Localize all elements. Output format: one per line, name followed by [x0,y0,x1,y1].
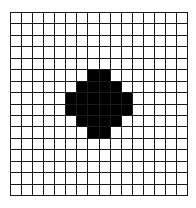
grid-cell [154,172,165,183]
grid-cell [143,115,154,126]
grid-cell [99,35,110,46]
grid-cell [154,92,165,103]
grid-cell [54,104,65,115]
grid-cell-filled [65,92,76,103]
grid-cell [76,58,87,69]
grid-cell [176,92,187,103]
grid-cell [76,161,87,172]
grid-cell [65,23,76,34]
grid-cell [132,104,143,115]
grid-cell [21,92,32,103]
grid-cell [143,46,154,57]
grid-cell-filled [99,69,110,80]
grid-cell [143,104,154,115]
grid-cell [132,149,143,160]
grid-cell [165,184,176,195]
grid-cell [87,138,98,149]
grid-cell [110,69,121,80]
grid-cell [43,138,54,149]
grid-cell-filled [121,104,132,115]
grid-cell [21,104,32,115]
grid-cell [132,69,143,80]
grid-cell-filled [99,115,110,126]
grid-cell [10,172,21,183]
grid-cell [43,23,54,34]
grid-cell [65,58,76,69]
grid-cell [54,161,65,172]
grid-cell [65,138,76,149]
grid-cell [21,35,32,46]
grid-cell [21,161,32,172]
grid-cell [99,138,110,149]
grid-cell [143,35,154,46]
grid-cell [176,149,187,160]
grid-cell [143,138,154,149]
grid-cell [54,12,65,23]
grid-cell [10,115,21,126]
grid-cell [132,81,143,92]
grid-cell-filled [110,104,121,115]
grid-cell [87,172,98,183]
grid-cell [132,126,143,137]
grid-cell [32,92,43,103]
grid-cell [110,172,121,183]
grid-cell [76,46,87,57]
grid-cell [43,104,54,115]
grid-cell-filled [87,115,98,126]
grid-cell [165,161,176,172]
grid-cell [43,92,54,103]
grid-cell-filled [87,81,98,92]
grid-cell [176,35,187,46]
grid-cell [121,126,132,137]
grid-cell [87,149,98,160]
grid-cell [121,115,132,126]
grid-cell [65,81,76,92]
grid-cell-filled [99,126,110,137]
grid-cell [32,115,43,126]
grid-cell [121,23,132,34]
grid-cell [99,149,110,160]
grid-cell [176,46,187,57]
grid-cell [65,115,76,126]
grid-cell [165,92,176,103]
grid-cell [154,161,165,172]
grid-cell [110,58,121,69]
grid-cell [65,12,76,23]
grid-cell [32,184,43,195]
grid-cell [32,81,43,92]
grid-cell [10,81,21,92]
grid-cell-filled [76,92,87,103]
grid-cell [176,81,187,92]
grid-cell [99,12,110,23]
grid-cell [110,12,121,23]
grid-cell [21,58,32,69]
grid-cell [76,23,87,34]
grid-cell [43,184,54,195]
grid-cell [121,161,132,172]
grid-cell [21,184,32,195]
grid-cell-filled [110,81,121,92]
grid-cell [154,58,165,69]
grid-cell [132,92,143,103]
grid-cell [154,35,165,46]
grid-cell-filled [87,69,98,80]
grid-cell [121,81,132,92]
grid-cell [10,69,21,80]
grid-cell [143,172,154,183]
grid-cell [143,69,154,80]
grid-cell [10,35,21,46]
grid-cell [87,184,98,195]
grid-cell [32,46,43,57]
grid-cell [65,46,76,57]
grid-cell [87,58,98,69]
grid-cell [65,126,76,137]
grid-cell [87,46,98,57]
grid-cell [154,23,165,34]
grid-cell [76,184,87,195]
grid-cell [54,126,65,137]
grid-cell-filled [110,92,121,103]
grid-cell [165,126,176,137]
grid-cell [121,12,132,23]
grid-cell [132,58,143,69]
grid-cell [132,23,143,34]
